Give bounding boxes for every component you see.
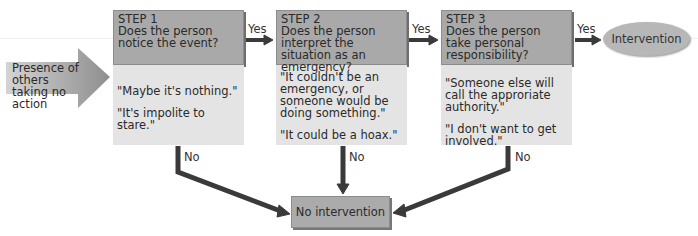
no-label-2: No xyxy=(349,150,365,164)
step-2-quote-1: "It couldn't be an emergency, or someone… xyxy=(280,71,403,119)
no-label-1: No xyxy=(184,150,200,164)
step-3: STEP 3 Does the person take personal res… xyxy=(441,10,572,145)
yes-label-2: Yes xyxy=(412,22,431,36)
step-1-question: Does the person notice the event? xyxy=(118,25,239,49)
step-1-header: STEP 1 Does the person notice the event? xyxy=(113,10,244,65)
step-1-body: "Maybe it's nothing." "It's impolite to … xyxy=(113,65,244,145)
intervention-outcome: Intervention xyxy=(603,22,690,56)
no-label-3: No xyxy=(515,150,531,164)
step-3-header: STEP 3 Does the person take personal res… xyxy=(441,10,572,65)
step-1-quote-1: "Maybe it's nothing." xyxy=(117,85,240,97)
step-2-quote-2: "It could be a hoax." xyxy=(280,129,403,141)
step-1-quote-2: "It's impolite to stare." xyxy=(117,107,240,131)
step-2: STEP 2 Does the person interpret the sit… xyxy=(276,10,407,145)
step-3-quote-1: "Someone else will call the approriate a… xyxy=(445,77,568,113)
step-2-body: "It couldn't be an emergency, or someone… xyxy=(276,65,407,145)
yes-label-1: Yes xyxy=(248,22,267,36)
step-2-header: STEP 2 Does the person interpret the sit… xyxy=(276,10,407,65)
step-3-body: "Someone else will call the approriate a… xyxy=(441,65,572,145)
step-3-quote-2: "I don't want to get involved." xyxy=(445,123,568,147)
input-label: Presence of others taking no action xyxy=(12,62,82,110)
no-intervention-outcome: No intervention xyxy=(291,196,390,228)
yes-label-3: Yes xyxy=(577,22,596,36)
step-3-question: Does the person take personal responsibi… xyxy=(446,25,567,61)
step-1: STEP 1 Does the person notice the event?… xyxy=(113,10,244,145)
